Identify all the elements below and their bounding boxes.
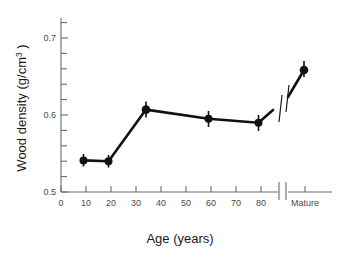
y-tick-label-0: 0.5 <box>43 187 56 197</box>
chart-canvas: 0.5 0.6 0.7 0 10 20 30 40 <box>0 0 340 256</box>
x-tick-label-7: 70 <box>231 198 241 208</box>
series-polyline <box>84 70 305 161</box>
x-tick-label-8: 80 <box>256 198 266 208</box>
y-tick-label-2: 0.7 <box>43 33 56 43</box>
y-axis-title-group: Wood density (g/cm3 ) <box>14 44 29 171</box>
data-point-1[interactable] <box>80 156 88 164</box>
segment-19-to-34 <box>109 110 147 162</box>
plot-break-marks <box>279 85 289 122</box>
x-tick-label-mature: Mature <box>291 198 319 208</box>
axes-group <box>61 18 332 192</box>
y-tick-labels: 0.5 0.6 0.7 <box>43 33 56 197</box>
segment-59-to-79 <box>209 119 259 123</box>
data-point-4[interactable] <box>205 115 213 123</box>
data-point-6[interactable] <box>300 66 309 75</box>
segment-34-to-59 <box>146 110 209 119</box>
x-axis-title: Age (years) <box>146 231 213 246</box>
x-axis-break-marks <box>279 182 286 200</box>
data-point-3[interactable] <box>142 105 151 114</box>
x-tick-marks <box>61 186 305 192</box>
y-axis-title-tail: ) <box>14 44 29 52</box>
x-tick-label-4: 40 <box>156 198 166 208</box>
data-point-2[interactable] <box>105 157 113 165</box>
x-tick-label-5: 50 <box>181 198 191 208</box>
y-axis-title: Wood density (g/cm3 ) <box>14 44 29 171</box>
x-tick-label-0: 0 <box>58 198 63 208</box>
x-tick-label-6: 60 <box>206 198 216 208</box>
x-tick-labels: 0 10 20 30 40 50 60 70 80 Mature <box>58 198 319 208</box>
x-tick-label-2: 20 <box>106 198 116 208</box>
data-point-5[interactable] <box>255 119 263 127</box>
wood-density-chart: 0.5 0.6 0.7 0 10 20 30 40 <box>0 0 340 256</box>
plot-break-line-2 <box>286 85 289 112</box>
x-tick-label-1: 10 <box>81 198 91 208</box>
x-tick-label-3: 30 <box>131 198 141 208</box>
y-tick-label-1: 0.6 <box>43 110 56 120</box>
y-tick-marks <box>61 23 68 192</box>
plot-break-line-1 <box>279 95 282 122</box>
segment-break-to-mature <box>288 70 304 97</box>
y-axis-title-main: Wood density (g/cm <box>14 57 29 172</box>
